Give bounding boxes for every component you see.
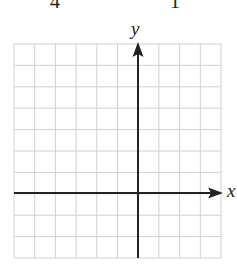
grid-lines xyxy=(14,44,221,258)
x-axis xyxy=(14,188,223,199)
coordinate-plane xyxy=(0,0,237,265)
y-axis xyxy=(133,42,144,258)
